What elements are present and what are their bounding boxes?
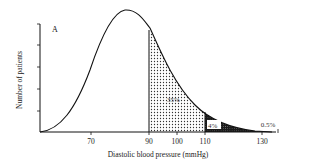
- shaded-region-90-110: [40, 10, 272, 132]
- annotation-4-percent: 4%: [208, 122, 218, 130]
- annotation-35-percent: 35%: [167, 96, 180, 104]
- panel-label: A: [52, 25, 58, 34]
- x-tick-100: 100: [171, 137, 183, 146]
- annotation-0-5-percent: 0.5%: [261, 121, 276, 129]
- y-axis-title: Number of patients: [15, 51, 24, 109]
- x-tick-110: 110: [200, 137, 211, 146]
- x-tick-130: 130: [256, 137, 268, 146]
- x-axis-title: Diastolic blood pressure (mmHg): [108, 150, 209, 159]
- distribution-chart: 70 90 100 110 130 Diastolic blood pressu…: [0, 0, 309, 168]
- x-tick-70: 70: [87, 137, 95, 146]
- x-tick-90: 90: [145, 137, 153, 146]
